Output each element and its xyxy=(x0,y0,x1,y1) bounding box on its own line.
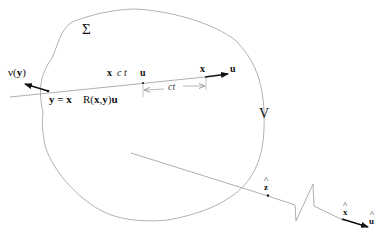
surface-sigma-curve xyxy=(40,9,264,221)
point-z-hat xyxy=(267,194,269,196)
x-end-label: x xyxy=(200,64,205,74)
normal-nu: ν( xyxy=(8,66,17,78)
diagram-svg xyxy=(0,0,384,232)
u-direction-label: u xyxy=(230,64,236,74)
lower-ray-line xyxy=(131,153,345,221)
x-hat-label: x xyxy=(343,208,348,217)
point-y xyxy=(47,90,50,93)
ct-arrow-left xyxy=(145,89,164,90)
reflection-u: u xyxy=(111,93,117,105)
u-hat-label: u xyxy=(369,217,374,226)
volume-label: V xyxy=(259,107,269,121)
u-mid-label: u xyxy=(140,68,146,78)
direction-arrow-u xyxy=(205,74,228,77)
point-u xyxy=(142,82,144,84)
direction-arrow-u-hat xyxy=(342,219,368,227)
normal-arrow xyxy=(25,84,48,91)
ct-span-label: ct xyxy=(168,82,175,92)
reflection-r: R( xyxy=(83,93,94,105)
x-minus-label: x xyxy=(107,68,112,78)
surface-sigma-label: Σ xyxy=(82,22,91,37)
normal-label: ν(y) xyxy=(8,67,26,78)
diagram-canvas: Σ ν(y) y = x R(x,y)u x c t u x u ct V ^ … xyxy=(0,0,384,232)
reflection-label: R(x,y)u xyxy=(83,94,118,105)
ct-inline-label: c t xyxy=(117,68,127,78)
normal-close: ) xyxy=(22,66,26,78)
y-equals-x-label: y = x xyxy=(49,94,72,105)
z-hat-label: z xyxy=(264,183,268,192)
